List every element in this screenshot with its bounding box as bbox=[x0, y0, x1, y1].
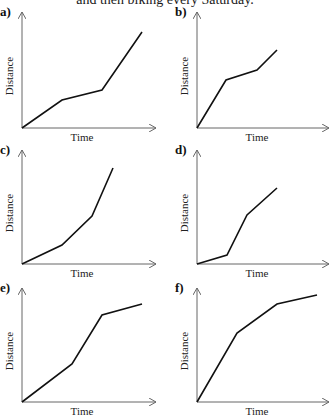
y-axis-label: Distance bbox=[3, 194, 15, 233]
x-axis-label: Time bbox=[246, 405, 269, 416]
distance-time-line bbox=[197, 50, 277, 128]
distance-time-line bbox=[197, 188, 277, 264]
panel-label: c) bbox=[0, 142, 10, 157]
panel-label: f) bbox=[175, 280, 184, 295]
distance-time-line bbox=[22, 32, 142, 128]
distance-time-line bbox=[22, 168, 113, 264]
x-axis-label: Time bbox=[71, 267, 94, 279]
x-axis-label: Time bbox=[71, 131, 94, 143]
x-axis-label: Time bbox=[71, 405, 94, 416]
panel-label: e) bbox=[0, 280, 10, 295]
y-axis-label: Distance bbox=[178, 332, 190, 371]
y-axis-label: Distance bbox=[3, 332, 15, 371]
y-axis-label: Distance bbox=[3, 57, 15, 96]
panel-label: d) bbox=[175, 142, 187, 157]
graphs-canvas: a)DistanceTimeb)DistanceTimec)DistanceTi… bbox=[0, 0, 330, 416]
y-axis-label: Distance bbox=[178, 194, 190, 233]
x-axis-label: Time bbox=[246, 267, 269, 279]
panel-label: a) bbox=[0, 4, 11, 19]
panel-label: b) bbox=[175, 4, 187, 19]
y-axis-label: Distance bbox=[178, 57, 190, 96]
x-axis-label: Time bbox=[246, 131, 269, 143]
distance-time-line bbox=[197, 295, 317, 402]
distance-time-line bbox=[22, 304, 142, 402]
